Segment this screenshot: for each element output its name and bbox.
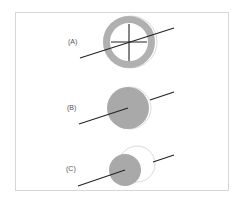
panel-b-axis-line-back [150,92,174,100]
panel-c: (C) [66,146,174,186]
panel-b-label: (B) [67,104,76,112]
diagram-canvas: (A) (B) (C) [0,0,245,204]
panel-a-label: (A) [68,38,77,46]
panel-b: (B) [67,87,174,129]
panel-a: (A) [68,16,174,68]
panel-c-label: (C) [66,165,76,173]
figure-svg: (A) (B) (C) [0,0,245,204]
panel-c-axis-line-back [153,155,174,162]
panel-a-axis-line [80,28,174,58]
